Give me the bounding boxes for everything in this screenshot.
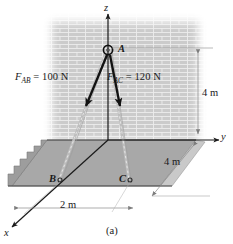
statics-figure: z y x A B C FAB = 100 N FAC = 120 N 4 m … xyxy=(0,0,233,244)
ground-plane xyxy=(8,140,205,186)
figure-canvas xyxy=(0,0,233,244)
